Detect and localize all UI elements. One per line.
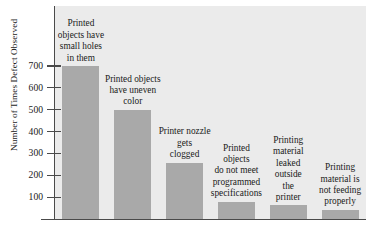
bar — [218, 202, 255, 219]
bar-caption: Printingmaterial isnot feedingproperly — [292, 162, 373, 208]
bar-caption-line: material — [240, 146, 336, 157]
bar-chart-figure: Number of Times Defect Observed 10020030… — [0, 0, 373, 243]
bar-caption-line: not feeding — [292, 185, 373, 196]
y-tick-label: 600 — [13, 82, 43, 93]
bar-caption-line: Printer nozzle — [137, 126, 233, 137]
bar-caption-line: Printing — [292, 162, 373, 173]
bar-caption-line: Printed — [33, 18, 129, 29]
y-tick-label: 100 — [13, 191, 43, 202]
y-tick-label: 500 — [13, 104, 43, 115]
bar — [322, 210, 359, 219]
bar-caption-line: Printed objects — [85, 74, 181, 85]
bar-caption-line: small holes — [33, 41, 129, 52]
y-tick-label: 200 — [13, 169, 43, 180]
bar-caption-line: color — [85, 96, 181, 107]
bar-caption-line: material is — [292, 174, 373, 185]
bar-caption-line: have uneven — [85, 85, 181, 96]
y-tick-label: 300 — [13, 147, 43, 158]
bar-caption-line: Printing — [240, 135, 336, 146]
bar-caption-line: properly — [292, 196, 373, 207]
y-tick-label: 400 — [13, 126, 43, 137]
bar-caption: Printed objectshave unevencolor — [85, 74, 181, 108]
bar-caption: Printedobjects havesmall holesin them — [33, 18, 129, 64]
x-axis-line — [41, 219, 366, 220]
bar-caption-line: objects have — [33, 30, 129, 41]
bar-caption-line: in them — [33, 53, 129, 64]
